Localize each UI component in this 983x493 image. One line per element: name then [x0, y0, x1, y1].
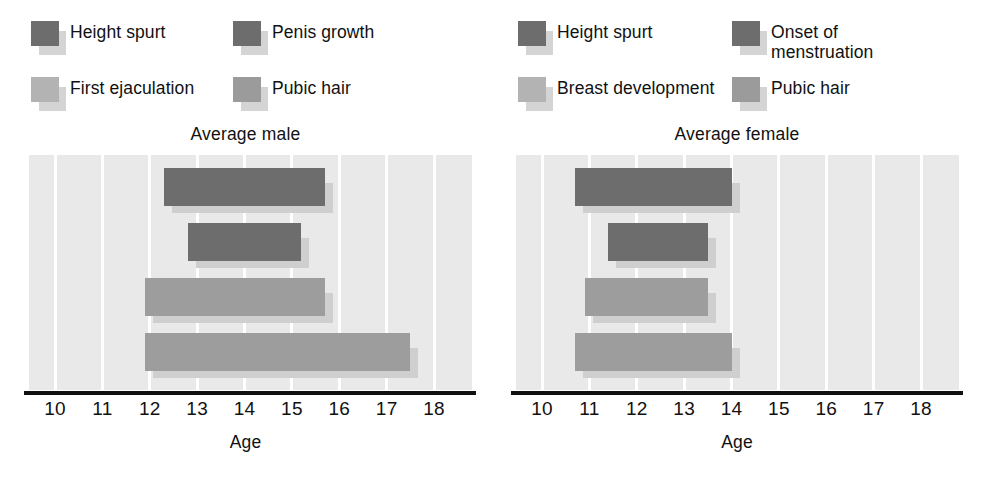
bar-height-spurt — [164, 163, 325, 215]
gridline — [54, 155, 57, 390]
x-tick-label: 10 — [531, 398, 553, 420]
puberty-timeline-figure: Height spurt First ejaculation Penis gro… — [0, 0, 983, 493]
panel-average-male: Height spurt First ejaculation Penis gro… — [0, 0, 491, 493]
legend-label: Onset of menstruation — [771, 20, 921, 62]
gridline — [101, 155, 104, 390]
legend-swatch-icon — [30, 20, 70, 54]
bar-first-ejaculation — [145, 328, 410, 380]
legend-item-breast-development: Breast development — [517, 76, 714, 110]
chart-title-average-male: Average male — [0, 124, 527, 145]
x-tick-label: 16 — [815, 398, 837, 420]
legend-swatch-icon — [517, 20, 557, 54]
legend-average-female: Height spurt Breast development Onset of… — [491, 14, 983, 124]
x-tick-label: 14 — [234, 398, 256, 420]
legend-swatch-icon — [30, 76, 70, 110]
bar-fill — [575, 168, 731, 206]
legend-item-onset-of-menstruation: Onset of menstruation — [731, 20, 921, 62]
x-tick-label: 12 — [626, 398, 648, 420]
legend-swatch-icon — [731, 20, 771, 54]
gridline — [433, 155, 436, 390]
bar-fill — [608, 223, 707, 261]
x-axis-tick-labels: 101112131415161718 — [0, 398, 491, 424]
panel-average-female: Height spurt Breast development Onset of… — [491, 0, 983, 493]
x-tick-label: 13 — [673, 398, 695, 420]
legend-average-male: Height spurt First ejaculation Penis gro… — [0, 14, 491, 124]
x-tick-label: 14 — [721, 398, 743, 420]
x-axis-line — [511, 391, 963, 395]
legend-swatch-icon — [731, 76, 771, 110]
x-tick-label: 18 — [910, 398, 932, 420]
gridline — [825, 155, 828, 390]
legend-label: Height spurt — [70, 20, 166, 42]
x-tick-label: 11 — [92, 398, 112, 420]
bar-pubic-hair — [585, 273, 708, 325]
legend-swatch-icon — [232, 20, 272, 54]
bar-onset-of-menstruation — [608, 218, 707, 270]
gridline — [541, 155, 544, 390]
legend-label: Height spurt — [557, 20, 653, 42]
legend-swatch-icon — [232, 76, 272, 110]
bar-fill — [585, 278, 708, 316]
gridline — [872, 155, 875, 390]
legend-label: Breast development — [557, 76, 714, 98]
legend-label: Pubic hair — [771, 76, 850, 98]
bar-fill — [188, 223, 302, 261]
bar-fill — [164, 168, 325, 206]
plot-area-average-male — [29, 155, 472, 390]
bar-penis-growth — [188, 218, 302, 270]
bar-fill — [145, 278, 325, 316]
plot-area-average-female — [516, 155, 959, 390]
x-tick-label: 17 — [863, 398, 885, 420]
x-axis-tick-labels: 101112131415161718 — [491, 398, 983, 424]
x-axis-title: Age — [0, 432, 533, 453]
x-tick-label: 17 — [376, 398, 398, 420]
legend-label: Penis growth — [272, 20, 374, 42]
x-axis-line — [24, 391, 476, 395]
x-tick-label: 15 — [281, 398, 303, 420]
x-tick-label: 12 — [139, 398, 161, 420]
x-tick-label: 15 — [768, 398, 790, 420]
legend-item-penis-growth: Penis growth — [232, 20, 374, 54]
legend-label: First ejaculation — [70, 76, 194, 98]
legend-item-height-spurt: Height spurt — [517, 20, 653, 54]
x-tick-label: 16 — [328, 398, 350, 420]
bar-height-spurt — [575, 163, 731, 215]
x-axis-title: Age — [491, 432, 983, 453]
bar-fill — [145, 333, 410, 371]
legend-item-pubic-hair: Pubic hair — [731, 76, 850, 110]
x-tick-label: 11 — [579, 398, 599, 420]
legend-item-height-spurt: Height spurt — [30, 20, 166, 54]
bar-pubic-hair — [145, 273, 325, 325]
x-tick-label: 18 — [423, 398, 445, 420]
bar-fill — [575, 333, 731, 371]
gridline — [777, 155, 780, 390]
legend-item-first-ejaculation: First ejaculation — [30, 76, 194, 110]
legend-swatch-icon — [517, 76, 557, 110]
x-tick-label: 13 — [186, 398, 208, 420]
chart-title-average-female: Average female — [491, 124, 983, 145]
bar-breast-development — [575, 328, 731, 380]
gridline — [920, 155, 923, 390]
legend-item-pubic-hair: Pubic hair — [232, 76, 351, 110]
x-tick-label: 10 — [44, 398, 66, 420]
legend-label: Pubic hair — [272, 76, 351, 98]
